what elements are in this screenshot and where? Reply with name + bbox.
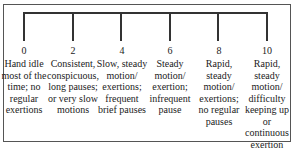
- tick-6: [169, 12, 171, 41]
- level-value: 10: [241, 44, 293, 57]
- tick-0: [23, 12, 25, 41]
- tick-4: [120, 12, 122, 41]
- level-6: 6 Steady motion/ exertion; infrequent pa…: [144, 44, 196, 116]
- tick-2: [72, 12, 74, 41]
- level-4: 4 Slow, steady motion/ exertions; freque…: [96, 44, 148, 116]
- level-0: 0 Hand idle most of the time; no regular…: [0, 44, 50, 116]
- tick-8: [217, 12, 219, 41]
- level-description: Consistent, conspicuous, long pauses; or…: [44, 58, 102, 116]
- level-description: Steady motion/ exertion; infrequent paus…: [144, 58, 196, 116]
- level-description: Slow, steady motion/ exertions; frequent…: [96, 58, 148, 116]
- level-description: Rapid, steady motion/ difficulty keeping…: [241, 58, 293, 149]
- level-value: 6: [144, 44, 196, 57]
- level-value: 0: [0, 44, 50, 57]
- level-10: 10 Rapid, steady motion/ difficulty keep…: [241, 44, 293, 149]
- level-2: 2 Consistent, conspicuous, long pauses; …: [44, 44, 102, 116]
- tick-10: [266, 12, 268, 41]
- level-description: Hand idle most of the time; no regular e…: [0, 58, 50, 116]
- level-value: 4: [96, 44, 148, 57]
- level-value: 8: [193, 44, 245, 57]
- scale-bar: [24, 12, 268, 14]
- level-description: Rapid, steady motion/ exertions; no regu…: [193, 58, 245, 127]
- level-value: 2: [44, 44, 102, 57]
- level-8: 8 Rapid, steady motion/ exertions; no re…: [193, 44, 245, 127]
